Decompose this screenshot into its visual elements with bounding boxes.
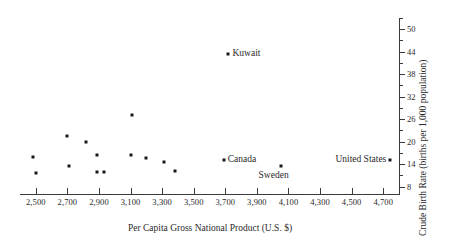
data-point: [85, 140, 88, 143]
y-minor-tick-mark: [399, 153, 403, 154]
data-point: [103, 171, 106, 174]
x-tick-label: 4,300: [310, 197, 330, 207]
x-tick-label: 3,100: [121, 197, 141, 207]
x-tick-mark: [352, 188, 353, 194]
y-tick-label: 8: [407, 182, 411, 192]
x-axis-title: Per Capita Gross National Product (U.S. …: [0, 223, 420, 233]
y-axis-line: [399, 18, 400, 195]
y-minor-tick-mark: [399, 85, 403, 86]
data-point: [173, 169, 176, 172]
y-minor-tick-mark: [399, 130, 403, 131]
data-point: [34, 172, 37, 175]
point-label-sweden: Sweden: [259, 170, 289, 180]
y-tick-mark: [399, 119, 405, 120]
y-minor-tick-mark: [399, 40, 403, 41]
y-tick-mark: [399, 187, 405, 188]
scatter-chart: 2,5002,7002,9003,1003,3003,5003,7003,900…: [0, 0, 452, 244]
data-point: [145, 157, 148, 160]
point-label-united-states: United States: [335, 154, 386, 164]
x-tick-label: 4,100: [279, 197, 299, 207]
x-axis-line: [20, 194, 400, 195]
y-tick-label: 20: [407, 137, 416, 147]
y-tick-mark: [399, 52, 405, 53]
y-tick-label: 50: [407, 24, 416, 34]
x-tick-mark: [320, 188, 321, 194]
plot-area: [20, 18, 399, 194]
y-tick-mark: [399, 29, 405, 30]
x-tick-mark: [99, 188, 100, 194]
x-tick-label: 4,700: [373, 197, 393, 207]
x-tick-label: 3,700: [215, 197, 235, 207]
y-minor-tick-mark: [399, 63, 403, 64]
data-point: [227, 52, 230, 55]
x-tick-mark: [383, 188, 384, 194]
x-tick-label: 3,900: [247, 197, 267, 207]
x-tick-mark: [225, 188, 226, 194]
x-tick-label: 3,300: [152, 197, 172, 207]
y-minor-tick-mark: [399, 108, 403, 109]
y-tick-mark: [399, 74, 405, 75]
y-tick-label: 26: [407, 114, 416, 124]
x-tick-label: 2,900: [89, 197, 109, 207]
data-point: [279, 165, 282, 168]
data-point: [66, 134, 69, 137]
x-tick-mark: [194, 188, 195, 194]
data-point: [131, 114, 134, 117]
y-minor-tick-mark: [399, 18, 403, 19]
y-tick-mark: [399, 164, 405, 165]
data-point: [95, 171, 98, 174]
x-tick-mark: [257, 188, 258, 194]
data-point: [96, 153, 99, 156]
x-tick-label: 4,500: [342, 197, 362, 207]
data-point: [222, 158, 225, 161]
x-tick-mark: [67, 188, 68, 194]
x-tick-mark: [162, 188, 163, 194]
y-tick-label: 38: [407, 69, 416, 79]
x-tick-mark: [131, 188, 132, 194]
x-tick-label: 2,700: [58, 197, 78, 207]
point-label-kuwait: Kuwait: [232, 48, 260, 58]
y-tick-label: 32: [407, 92, 416, 102]
x-tick-mark: [288, 188, 289, 194]
data-point: [31, 155, 34, 158]
y-minor-tick-mark: [399, 175, 403, 176]
data-point: [67, 164, 70, 167]
y-axis-title: Crude Birth Rate (births per 1,000 popul…: [418, 0, 436, 236]
data-point: [162, 160, 165, 163]
data-point: [129, 153, 132, 156]
y-tick-label: 44: [407, 47, 416, 57]
point-label-canada: Canada: [228, 154, 257, 164]
x-tick-label: 2,500: [26, 197, 46, 207]
x-tick-mark: [36, 188, 37, 194]
data-point: [389, 158, 392, 161]
y-tick-mark: [399, 97, 405, 98]
x-tick-label: 3,500: [184, 197, 204, 207]
y-tick-label: 14: [407, 159, 416, 169]
y-tick-mark: [399, 142, 405, 143]
